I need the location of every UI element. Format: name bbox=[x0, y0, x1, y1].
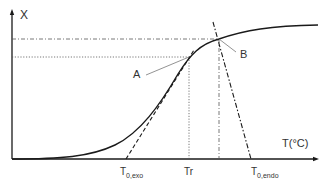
tick-t0-exo-sub: 0,exo bbox=[126, 172, 143, 179]
tick-tr: Tr bbox=[184, 166, 194, 177]
tick-t0-endo: T0,endo bbox=[251, 166, 279, 179]
point-b-label: B bbox=[240, 48, 247, 60]
point-b-leader bbox=[219, 39, 236, 52]
point-a-label: A bbox=[133, 68, 141, 80]
x-axis-label: T(°C) bbox=[282, 137, 308, 149]
tick-t0-exo: T0,exo bbox=[120, 166, 143, 179]
y-axis-arrow-icon bbox=[10, 9, 14, 15]
axes bbox=[10, 9, 319, 161]
y-axis-label: X bbox=[20, 8, 28, 22]
guide-lines bbox=[12, 39, 219, 159]
diagram-canvas: X A B T(°C) T0,exo Tr T0,endo bbox=[0, 0, 324, 188]
tick-t0-endo-sub: 0,endo bbox=[257, 172, 279, 179]
x-axis-arrow-icon bbox=[313, 157, 319, 161]
conversion-curve bbox=[12, 25, 318, 159]
